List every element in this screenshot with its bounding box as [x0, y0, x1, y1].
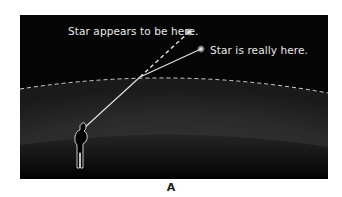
refraction-diagram-panel: Star appears to be here. Star is really … [20, 15, 328, 179]
light-path-real [140, 49, 201, 77]
real-star-label: Star is really here. [210, 44, 308, 56]
ground-region [20, 134, 328, 179]
panel-caption: A [0, 181, 342, 194]
apparent-star-label: Star appears to be here. [68, 25, 198, 37]
real-star-icon [197, 45, 205, 53]
diagram-graphic [20, 15, 328, 179]
light-path-apparent [140, 32, 189, 77]
